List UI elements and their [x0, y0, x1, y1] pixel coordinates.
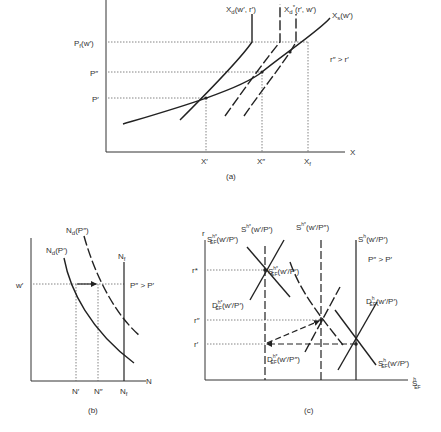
- panel-a-caption: (a): [226, 172, 236, 181]
- label-xd-star: Xd*(r′, w′): [284, 4, 317, 15]
- tick-x1: X′: [201, 157, 208, 166]
- panel-c-note: P″ > P′: [368, 255, 393, 264]
- panel-b: N w′ Nd(P″) Nd(P′) Nf P″ > P′ N′ N″ Nf (…: [15, 226, 155, 415]
- tick-pf: Pf(w′): [74, 39, 94, 49]
- panel-a-x-axis-label: X: [350, 148, 356, 157]
- panel-b-caption: (b): [88, 406, 98, 415]
- diagram-canvas: X Pf(w′) P″ P′ X′ X″ Xf (a) Xd(w′, r: [0, 0, 441, 432]
- curve-xd: [180, 14, 252, 120]
- label-sef-h: ShEF(w′/P′): [378, 357, 410, 369]
- label-sef-star-top: Sh*EF(w′/P′): [207, 233, 238, 245]
- panel-c-x-axis-label: ShEF: [412, 376, 421, 390]
- label-def-h: DhEF(w′/P′): [366, 295, 398, 307]
- panel-b-x-axis-label: N: [146, 377, 152, 386]
- tick-r1: r′: [194, 340, 199, 349]
- curve-def-h: [338, 302, 377, 370]
- tick-p1: P′: [92, 95, 99, 104]
- panel-c-caption: (c): [304, 406, 314, 415]
- label-def-star-low: Dh*EF(w′/P″): [267, 353, 300, 365]
- tick-xf: Xf: [304, 157, 311, 167]
- tick-r2: r″: [194, 316, 200, 325]
- tick-rstar: r*: [192, 266, 198, 275]
- label-nd-p2: Nd(P″): [66, 226, 89, 236]
- panel-a: X Pf(w′) P″ P′ X′ X″ Xf (a) Xd(w′, r: [74, 0, 356, 181]
- label-nf: Nf: [118, 252, 126, 262]
- panel-b-note: P″ > P′: [130, 281, 155, 290]
- label-xs: Xs(w′): [332, 11, 353, 21]
- label-sh-star-p2: Sh*(w′/P″): [296, 221, 329, 232]
- label-xd: Xd(w′, r′): [226, 5, 256, 15]
- panel-c-y-axis-label: r: [202, 229, 205, 238]
- tick-p2: P″: [90, 69, 98, 78]
- tick-n1: N′: [72, 387, 80, 396]
- label-sh-star-p1: Sh*(w′/P′): [241, 223, 273, 234]
- panel-c: r ShEF r* r″ r′ Sh*(w′/P′) Sh*(w′/: [192, 221, 421, 415]
- tick-n2: N″: [94, 387, 103, 396]
- label-sef-star-mid: Sh*EF(w′/P′): [268, 265, 299, 277]
- tick-nf: Nf: [120, 387, 128, 397]
- tick-w1: w′: [15, 281, 24, 290]
- curve-xs: [123, 18, 330, 124]
- label-def-star-mid: Dh*EF(w′/P′): [212, 299, 244, 311]
- panel-a-note: r″ > r′: [330, 55, 349, 64]
- label-nd-p1: Nd(P′): [46, 246, 68, 256]
- label-sh-p1: Sh(w′/P′): [358, 233, 388, 244]
- tick-x2: X″: [257, 157, 265, 166]
